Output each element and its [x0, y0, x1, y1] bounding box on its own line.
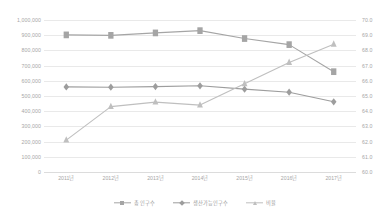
legend-swatch-square-icon [114, 199, 131, 206]
x-axis-tick: 2013년 [147, 174, 164, 181]
series-line [66, 31, 333, 72]
legend-item-3[interactable]: 비율 [246, 199, 276, 206]
y-axis-right-tick: 69.0 [362, 32, 373, 38]
y-axis-left-tick: 600,000 [22, 78, 41, 84]
x-axis: 2011년2012년2013년2014년2015년2016년2017년 [44, 174, 356, 186]
y-axis-right-tick: 64.0 [362, 108, 373, 114]
legend-item-1[interactable]: 총 인구수 [114, 199, 155, 206]
y-axis-right-tick: 62.0 [362, 139, 373, 145]
series-3 [63, 40, 336, 142]
y-axis-right-tick: 63.0 [362, 123, 373, 129]
legend-label: 총 인구수 [134, 199, 155, 206]
y-axis-left-tick: 700,000 [22, 63, 41, 69]
y-axis-left-tick: 300,000 [22, 123, 41, 129]
chart-container: 1,000,000900,000800,000700,000600,000500… [0, 0, 390, 210]
data-point-marker [331, 98, 337, 105]
y-axis-left-tick: 100,000 [22, 154, 41, 160]
y-axis-right-tick: 66.0 [362, 78, 373, 84]
data-point-marker [331, 40, 337, 46]
legend-swatch-triangle-icon [246, 199, 263, 206]
gridline [44, 172, 356, 173]
y-axis-right: 70.069.068.067.066.065.064.063.062.061.0… [359, 20, 390, 172]
y-axis-left-tick: 1,000,000 [17, 17, 41, 23]
data-point-marker [153, 83, 159, 90]
data-point-marker [197, 27, 202, 34]
y-axis-right-tick: 65.0 [362, 93, 373, 99]
y-axis-right-tick: 67.0 [362, 63, 373, 69]
data-point-marker [331, 68, 336, 75]
chart-legend: 총 인구수생산가능인구수비율 [0, 199, 390, 206]
legend-label: 생산가능인구수 [193, 199, 228, 206]
series-line [66, 44, 333, 140]
data-point-marker [108, 32, 113, 39]
y-axis-right-tick: 60.0 [362, 169, 373, 175]
data-point-marker [63, 83, 69, 90]
data-point-marker [153, 30, 158, 37]
data-point-marker [197, 82, 203, 89]
legend-swatch-diamond-icon [173, 199, 190, 206]
legend-item-2[interactable]: 생산가능인구수 [173, 199, 228, 206]
data-point-marker [286, 89, 292, 96]
y-axis-left-tick: 400,000 [22, 108, 41, 114]
legend-label: 비율 [266, 199, 276, 206]
y-axis-right-tick: 70.0 [362, 17, 373, 23]
y-axis-left-tick: 500,000 [22, 93, 41, 99]
plot-area [44, 20, 356, 172]
data-point-marker [63, 136, 69, 142]
y-axis-right-tick: 61.0 [362, 154, 373, 160]
x-axis-tick: 2011년 [58, 174, 74, 181]
data-point-marker [242, 35, 247, 42]
x-axis-tick: 2017년 [325, 174, 342, 181]
x-axis-tick: 2012년 [103, 174, 120, 181]
y-axis-left-tick: 900,000 [22, 32, 41, 38]
data-point-marker [242, 86, 248, 93]
data-point-marker [64, 32, 69, 39]
data-point-marker [108, 84, 114, 91]
x-axis-tick: 2016년 [281, 174, 298, 181]
series-layer [44, 20, 356, 172]
y-axis-left-tick: 800,000 [22, 47, 41, 53]
data-point-marker [152, 98, 158, 104]
y-axis-left: 1,000,000900,000800,000700,000600,000500… [0, 20, 41, 172]
y-axis-right-tick: 68.0 [362, 47, 373, 53]
data-point-marker [286, 41, 291, 48]
y-axis-left-tick: 0 [38, 169, 41, 175]
x-axis-tick: 2014년 [192, 174, 209, 181]
series-1 [64, 27, 337, 75]
y-axis-left-tick: 200,000 [22, 139, 41, 145]
x-axis-tick: 2015년 [236, 174, 253, 181]
